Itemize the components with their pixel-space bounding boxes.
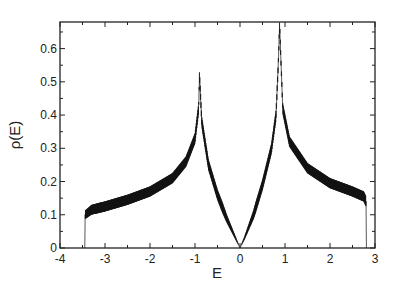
x-tick-label: 1 bbox=[282, 252, 289, 266]
x-tick-label: 3 bbox=[372, 252, 379, 266]
y-tick-label: 0.5 bbox=[40, 75, 57, 89]
dos-curve bbox=[85, 23, 367, 248]
x-tick-label: 2 bbox=[327, 252, 334, 266]
x-tick-label: -1 bbox=[190, 252, 201, 266]
y-tick-label: 0.2 bbox=[40, 175, 57, 189]
y-tick-label: 0.3 bbox=[40, 141, 57, 155]
y-tick-label: 0 bbox=[50, 241, 57, 255]
y-axis-ticks: 00.10.20.30.40.50.6 bbox=[40, 32, 375, 255]
y-tick-label: 0.6 bbox=[40, 42, 57, 56]
x-tick-label: -3 bbox=[100, 252, 111, 266]
x-tick-label: -2 bbox=[145, 252, 156, 266]
plot-frame bbox=[60, 22, 375, 248]
plot-border bbox=[60, 22, 375, 248]
dos-chart: -4-3-2-10123 00.10.20.30.40.50.6 E ρ(E) bbox=[0, 0, 395, 293]
y-tick-label: 0.1 bbox=[40, 208, 57, 222]
y-axis-label: ρ(E) bbox=[6, 121, 23, 150]
x-axis-ticks: -4-3-2-10123 bbox=[55, 22, 379, 266]
y-tick-label: 0.4 bbox=[40, 108, 57, 122]
x-tick-label: 0 bbox=[237, 252, 244, 266]
x-axis-label: E bbox=[212, 264, 222, 281]
dos-series-line bbox=[85, 23, 367, 248]
